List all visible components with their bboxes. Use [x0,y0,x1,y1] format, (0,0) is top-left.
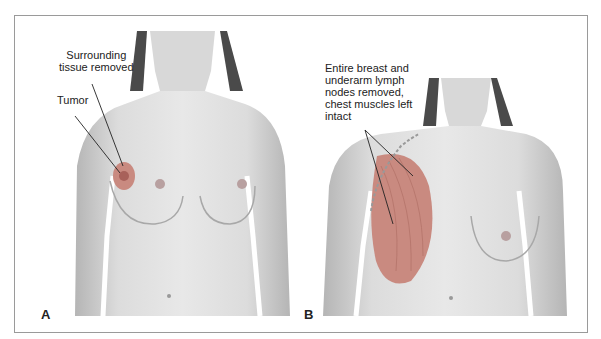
panel-a: Surrounding tissue removed Tumor A [15,16,301,332]
panel-b: Entire breast and underarm lymph nodes r… [301,16,587,332]
panel-letter-a: A [41,307,50,322]
label-surrounding-tissue: Surrounding tissue removed [59,49,134,73]
label-tumor: Tumor [57,94,88,106]
figure-frame: Surrounding tissue removed Tumor A [14,15,588,333]
tumor-marker [119,171,129,181]
panel-letter-b: B [304,307,313,322]
torso-illustration-a [15,16,301,332]
label-entire-breast-removed: Entire breast and underarm lymph nodes r… [325,62,412,122]
